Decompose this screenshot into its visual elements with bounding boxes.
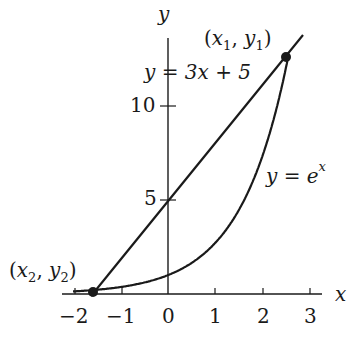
y-axis-label: y (158, 4, 169, 24)
line-equation-label: y = 3x + 5 (144, 62, 251, 82)
x-tick-label: −2 (59, 306, 88, 326)
x-tick-label: 3 (304, 306, 317, 326)
y-tick-label: 10 (130, 95, 155, 115)
point-2-label: (x2, y2) (9, 260, 77, 284)
y-tick-label: 5 (144, 188, 157, 208)
intersection-point-2 (88, 287, 98, 297)
exp-equation-label: y = ex (266, 164, 326, 186)
x-tick-label: 2 (257, 306, 270, 326)
curve-y-exp-x (73, 54, 289, 291)
point-1-label: (x1, y1) (204, 28, 272, 52)
chart-figure: y x −2 −1 0 1 2 3 5 10 y = 3x + 5 y = ex… (0, 0, 350, 357)
intersection-point-1 (281, 52, 291, 62)
x-tick-label: 0 (162, 306, 175, 326)
x-axis-label: x (335, 284, 346, 304)
x-tick-label: −1 (106, 306, 135, 326)
x-tick-label: 1 (209, 306, 222, 326)
